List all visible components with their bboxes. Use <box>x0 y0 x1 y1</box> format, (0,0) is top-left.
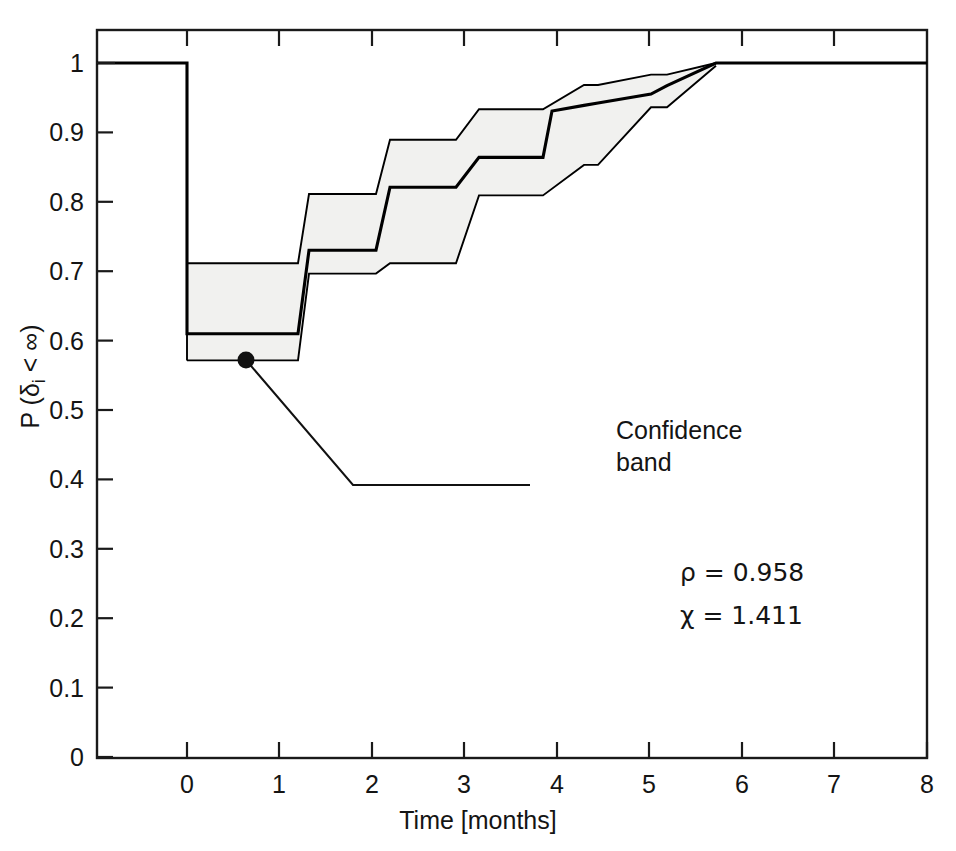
xtick-label-2: 2 <box>365 772 379 797</box>
y-axis-title-prefix: P (δ <box>16 383 44 428</box>
xtick-label-8: 8 <box>920 772 934 797</box>
confidence-band-annotation-line1: Confidence <box>616 415 742 447</box>
ytick-label-0_8: 0.8 <box>10 190 84 215</box>
xtick-label-5: 5 <box>642 772 656 797</box>
confidence-band-annotation: Confidence band <box>616 415 742 478</box>
xtick-label-0: 0 <box>180 772 194 797</box>
ytick-label-0_3: 0.3 <box>10 537 84 562</box>
ytick-label-0: 0 <box>46 745 84 770</box>
ytick-label-0_9: 0.9 <box>10 120 84 145</box>
ytick-label-0_2: 0.2 <box>10 606 84 631</box>
figure-container: 1 0.9 0.8 0.7 0.6 0.5 0.4 0.3 0.2 0.1 0 … <box>0 0 956 851</box>
ytick-label-1: 1 <box>46 51 84 76</box>
xtick-label-4: 4 <box>550 772 564 797</box>
y-axis-title: P (δi < ∞) <box>16 247 49 507</box>
xtick-label-1: 1 <box>272 772 286 797</box>
confidence-band-annotation-line2: band <box>616 447 742 479</box>
x-axis-title: Time [months] <box>0 806 956 835</box>
y-axis-title-subscript: i <box>29 379 49 383</box>
xtick-label-6: 6 <box>735 772 749 797</box>
xtick-label-3: 3 <box>457 772 471 797</box>
statistic-chi: χ = 1.411 <box>680 600 803 632</box>
y-axis-title-suffix: < ∞) <box>16 324 44 379</box>
ytick-label-0_1: 0.1 <box>10 676 84 701</box>
chart-canvas <box>0 0 956 851</box>
xtick-label-7: 7 <box>827 772 841 797</box>
statistic-rho: ρ = 0.958 <box>680 557 804 589</box>
